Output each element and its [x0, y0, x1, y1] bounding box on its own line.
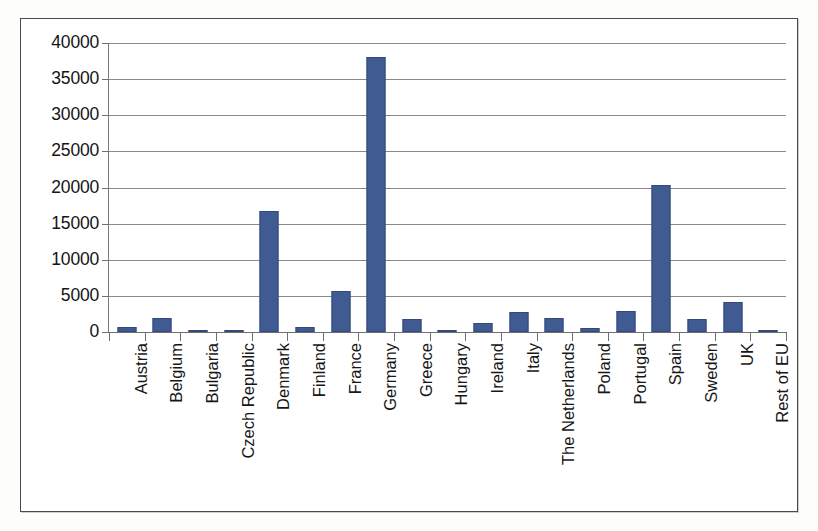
x-tick-mark: [358, 332, 359, 341]
x-axis-category-labels: AustriaBelgiumBulgariaCzech RepublicDenm…: [109, 343, 786, 508]
bar: [402, 319, 421, 332]
bar: [616, 311, 635, 332]
x-tick-mark: [465, 332, 466, 341]
bar-slot: [323, 43, 359, 332]
x-tick-mark: [323, 332, 324, 341]
y-tick-mark: [102, 151, 109, 152]
bar-slot: [465, 43, 501, 332]
bar: [153, 318, 172, 332]
x-tick-mark: [145, 332, 146, 341]
x-tick-mark: [786, 332, 787, 341]
x-label-slot: Greece: [394, 343, 430, 508]
x-label-slot: The Netherlands: [537, 343, 573, 508]
bar-slot: [287, 43, 323, 332]
x-label-slot: Germany: [358, 343, 394, 508]
bar: [687, 319, 706, 332]
y-tick-label: 35000: [23, 70, 99, 88]
y-tick-mark: [102, 224, 109, 225]
y-tick-mark: [102, 332, 109, 333]
bar-slot: [109, 43, 145, 332]
y-tick-mark: [102, 260, 109, 261]
x-label-slot: Austria: [109, 343, 145, 508]
bar: [509, 312, 528, 332]
x-label-slot: Poland: [572, 343, 608, 508]
y-tick-mark: [102, 296, 109, 297]
x-label-slot: Sweden: [679, 343, 715, 508]
y-tick-label: 40000: [23, 34, 99, 52]
x-tick-mark: [109, 332, 110, 341]
bar: [331, 291, 350, 332]
x-tick-mark: [750, 332, 751, 341]
x-label-slot: Bulgaria: [180, 343, 216, 508]
x-tick-mark: [715, 332, 716, 341]
y-tick-mark: [102, 43, 109, 44]
x-tick-label: Rest of EU: [774, 343, 791, 423]
y-tick-label: 25000: [23, 142, 99, 160]
y-axis-tick-labels: 4000035000300002500020000150001000050000: [21, 43, 99, 333]
chart-border-frame: 4000035000300002500020000150001000050000…: [20, 18, 798, 512]
bar: [652, 185, 671, 332]
bar-slot: [180, 43, 216, 332]
y-tick-mark: [102, 115, 109, 116]
x-tick-mark: [430, 332, 431, 341]
y-tick-mark: [102, 79, 109, 80]
bar-slot: [394, 43, 430, 332]
bar: [474, 323, 493, 332]
x-label-slot: Portugal: [608, 343, 644, 508]
bar: [260, 211, 279, 332]
bar-slot: [216, 43, 252, 332]
bar: [545, 318, 564, 332]
x-label-slot: France: [323, 343, 359, 508]
x-tick-mark: [501, 332, 502, 341]
x-label-slot: Finland: [287, 343, 323, 508]
x-label-slot: Denmark: [252, 343, 288, 508]
x-label-slot: Spain: [643, 343, 679, 508]
bar-slot: [145, 43, 181, 332]
x-tick-mark: [287, 332, 288, 341]
x-label-slot: Czech Republic: [216, 343, 252, 508]
plot-area: [109, 43, 786, 332]
x-label-slot: UK: [715, 343, 751, 508]
bar-slot: [750, 43, 786, 332]
x-tick-mark: [180, 332, 181, 341]
y-tick-label: 30000: [23, 106, 99, 124]
x-tick-mark: [394, 332, 395, 341]
y-tick-mark: [102, 188, 109, 189]
bar-slot: [358, 43, 394, 332]
figure-root: 4000035000300002500020000150001000050000…: [0, 0, 818, 531]
bar-slot: [608, 43, 644, 332]
bar-slot: [252, 43, 288, 332]
x-tick-mark: [608, 332, 609, 341]
y-tick-label: 5000: [23, 287, 99, 305]
bar-slot: [679, 43, 715, 332]
bar-slot: [643, 43, 679, 332]
x-label-slot: Belgium: [145, 343, 181, 508]
x-label-slot: Ireland: [465, 343, 501, 508]
bar-slot: [537, 43, 573, 332]
x-axis-tick-marks: [109, 332, 787, 341]
x-tick-mark: [252, 332, 253, 341]
bar: [723, 302, 742, 332]
bar: [367, 57, 386, 332]
x-tick-mark: [572, 332, 573, 341]
x-label-slot: Italy: [501, 343, 537, 508]
x-label-slot: Rest of EU: [750, 343, 786, 508]
x-tick-mark: [537, 332, 538, 341]
x-tick-mark: [643, 332, 644, 341]
x-tick-mark: [216, 332, 217, 341]
bar-slot: [715, 43, 751, 332]
bar-slot: [430, 43, 466, 332]
y-tick-label: 20000: [23, 179, 99, 197]
y-tick-label: 15000: [23, 215, 99, 233]
bar-slot: [501, 43, 537, 332]
y-tick-label: 0: [23, 323, 99, 341]
x-tick-mark: [679, 332, 680, 341]
y-tick-label: 10000: [23, 251, 99, 269]
x-label-slot: Hungary: [430, 343, 466, 508]
bar-slot: [572, 43, 608, 332]
